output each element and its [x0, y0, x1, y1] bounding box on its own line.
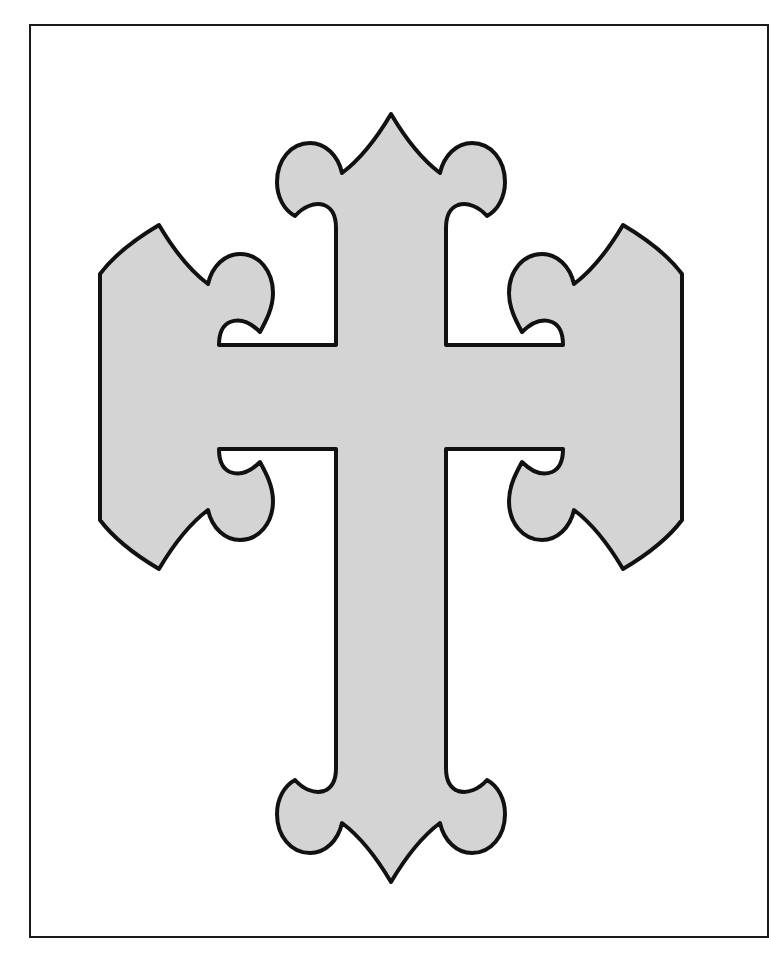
- cross-shape: [100, 114, 682, 882]
